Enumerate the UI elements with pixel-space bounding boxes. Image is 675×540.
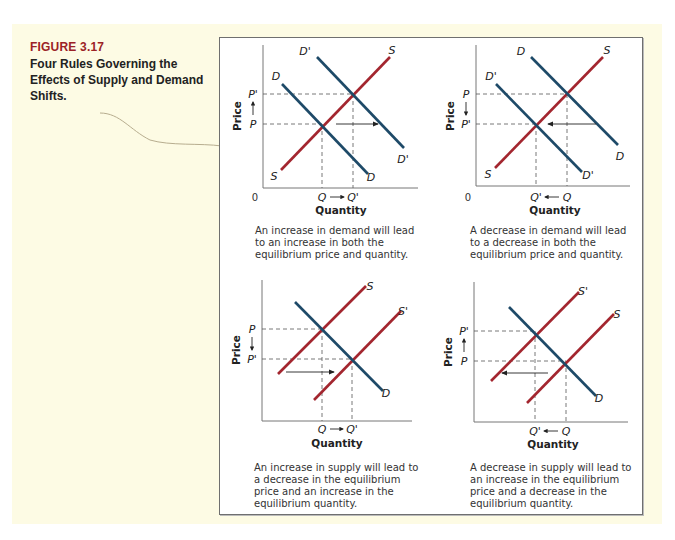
- panel-3-x-axis-title: Quantity: [311, 437, 363, 449]
- panel-2-curve-label: S: [485, 168, 492, 181]
- panel-4-x-axis-title: Quantity: [527, 438, 579, 450]
- panel-1-origin-label: 0: [252, 192, 258, 203]
- panel-1-curve-label: D: [367, 171, 375, 184]
- panel-2-price-label-top: P: [463, 88, 470, 101]
- panel-1-description: An increase in demand will lead to an in…: [255, 225, 425, 261]
- panel-3-curve-d-demand: [295, 302, 383, 391]
- panel-1-price-label-top: P': [248, 88, 258, 101]
- panel-2-curve-label: D: [517, 45, 525, 58]
- panel-1-quantity-label-right: Q': [347, 191, 359, 204]
- panel-2-quantity-label-left: Q': [530, 191, 542, 204]
- panel-4-curve-label: S': [578, 285, 588, 298]
- panel-1-price-label-bottom: P: [250, 118, 257, 131]
- panel-2-y-axis-title: Price: [444, 101, 456, 131]
- panel-4-price-label-bottom: P: [461, 355, 468, 368]
- panel-1-curve-label: D': [397, 153, 409, 166]
- diagram-panels: SSDDD'D'P'PQQ'0QuantityPriceSSDDD'D'PP'Q…: [0, 0, 675, 540]
- panel-2-curve-label: D: [616, 150, 624, 163]
- panel-3-description: An increase in supply will lead to a dec…: [254, 462, 424, 510]
- panel-3-y-axis-title: Price: [230, 335, 242, 365]
- panel-2-quantity-label-right: Q: [563, 191, 572, 204]
- panel-4-curve-label: D: [595, 392, 603, 405]
- panel-1-curve-s-supply: [281, 57, 390, 170]
- panel-4-quantity-label-left: Q': [529, 425, 541, 438]
- panel-1-curve-label: D: [272, 70, 280, 83]
- panel-1-curve-label: S: [271, 170, 278, 183]
- panel-3-curve-label: D: [382, 387, 390, 400]
- panel-3-curve-label: S': [398, 305, 408, 318]
- panel-4-curve-s-supply: [527, 314, 614, 403]
- panel-2-price-label-bottom: P': [461, 118, 471, 131]
- panel-1-curve-label: S: [389, 44, 396, 57]
- panel-1-quantity-label-left: Q: [318, 191, 327, 204]
- panel-1-y-axis-title: Price: [231, 101, 243, 131]
- panel-2-curve-label: S: [604, 44, 611, 57]
- panel-2-description: A decrease in demand will lead to a decr…: [470, 225, 635, 261]
- panel-3-price-label-top: P: [249, 323, 256, 336]
- panel-2-x-axis-title: Quantity: [529, 204, 581, 216]
- panel-3-price-label-bottom: P': [247, 353, 257, 366]
- panel-2-curve-label: D': [582, 169, 594, 182]
- panel-3-quantity-label-right: Q': [346, 423, 358, 436]
- panel-4-price-label-top: P': [459, 325, 469, 338]
- panel-2-origin-label: 0: [465, 192, 471, 203]
- panel-4-y-axis-title: Price: [442, 337, 454, 367]
- panel-4-quantity-label-right: Q: [562, 425, 571, 438]
- panel-4-description: A decrease in supply will lead to an inc…: [470, 462, 635, 510]
- panel-2-curve-label: D': [485, 70, 497, 83]
- panel-3-curve-label: S: [367, 280, 374, 293]
- panel-4-curve-label: S: [614, 308, 621, 321]
- panel-1-curve-label: D': [299, 45, 311, 58]
- panel-1-x-axis-title: Quantity: [315, 204, 367, 216]
- panel-3-quantity-label-left: Q: [318, 423, 327, 436]
